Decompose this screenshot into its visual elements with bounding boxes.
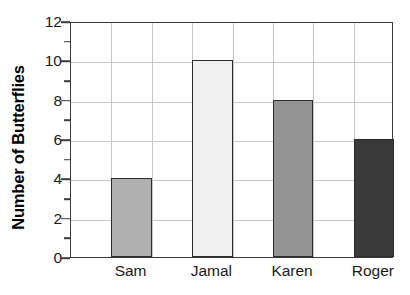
y-tick-major	[61, 21, 70, 23]
y-tick-major	[61, 139, 70, 141]
bar	[111, 178, 151, 257]
bar	[354, 139, 394, 257]
y-tick-major	[61, 179, 70, 181]
bar-chart: Number of Butterflies 024681012 SamJamal…	[0, 0, 410, 295]
x-tick-label: Karen	[271, 262, 312, 279]
y-tick-major	[61, 61, 70, 63]
bar	[273, 100, 313, 257]
gridline-vertical	[313, 23, 314, 257]
plot-area	[70, 22, 393, 258]
gridline-vertical	[233, 23, 234, 257]
y-tick-major	[61, 218, 70, 220]
x-tick-label: Jamal	[191, 262, 232, 279]
gridline-vertical	[152, 23, 153, 257]
x-tick-label: Roger	[352, 262, 394, 279]
x-tick-label: Sam	[115, 262, 147, 279]
bar	[192, 60, 232, 257]
x-axis-tick-labels: SamJamalKarenRoger	[70, 262, 393, 292]
y-tick-major	[61, 100, 70, 102]
y-tick-major	[61, 257, 70, 259]
